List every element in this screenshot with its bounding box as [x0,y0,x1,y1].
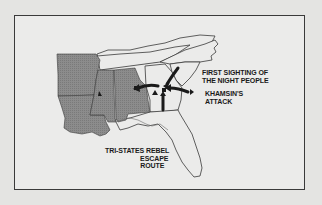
label-escape-route: TRI-STATES REBEL ESCAPE ROUTE [105,147,169,170]
label-escape-line1: TRI-STATES REBEL [105,147,169,155]
label-khamsin-line2: ATTACK [205,98,243,106]
label-khamsin-attack: KHAMSIN'S ATTACK [205,90,243,105]
state-arkansas [57,54,100,96]
label-escape-line2: ESCAPE [105,155,168,163]
label-first-sighting-line2: THE NIGHT PEOPLE [202,77,268,85]
triangle-marker-east [190,89,194,95]
southeast-us-map [0,0,322,205]
label-khamsin-line1: KHAMSIN'S [205,90,243,98]
label-first-sighting-line1: FIRST SIGHTING OF [202,69,268,77]
label-first-sighting: FIRST SIGHTING OF THE NIGHT PEOPLE [202,69,268,84]
square-marker-georgia [162,88,166,92]
label-escape-line3: ROUTE [105,162,164,170]
